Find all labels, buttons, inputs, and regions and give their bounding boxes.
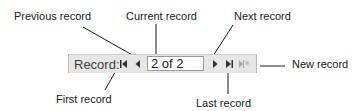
callout-last-record: Last record [196, 97, 251, 109]
triangle-right-icon [209, 58, 221, 70]
new-record-asterisk-icon [237, 58, 251, 70]
new-record-button[interactable] [237, 58, 251, 70]
callout-next-record: Next record [234, 10, 291, 22]
first-record-button[interactable] [118, 58, 130, 70]
callout-current-record: Current record [126, 10, 197, 22]
skip-to-last-icon [223, 58, 235, 70]
callout-new-record: New record [292, 58, 348, 70]
record-navigator: Record: [68, 54, 257, 73]
record-label: Record: [74, 57, 120, 72]
previous-record-button[interactable] [132, 58, 144, 70]
callout-first-record: First record [56, 93, 112, 105]
triangle-left-icon [132, 58, 144, 70]
last-record-button[interactable] [223, 58, 235, 70]
callout-previous-record: Previous record [14, 10, 91, 22]
next-record-button[interactable] [209, 58, 221, 70]
current-record-input[interactable] [147, 56, 204, 71]
skip-to-first-icon [118, 58, 130, 70]
